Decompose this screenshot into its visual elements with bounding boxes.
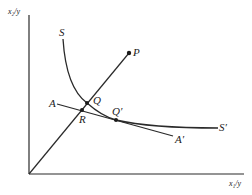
- point-q-prime-dot: [114, 118, 118, 122]
- label-p: P: [133, 47, 140, 58]
- label-q: Q: [93, 95, 101, 106]
- label-r: R: [79, 114, 86, 125]
- point-p-dot: [127, 51, 131, 55]
- point-r-dot: [80, 108, 84, 112]
- diagram-canvas: x₂/y x₁/y S S′ A A′ P Q R Q′: [0, 0, 252, 195]
- point-q-dot: [85, 101, 89, 105]
- x-axis-label: x₁/y: [229, 180, 241, 188]
- label-a-prime: A′: [175, 134, 184, 145]
- diagram-svg: [0, 0, 252, 195]
- y-axis-label: x₂/y: [8, 8, 20, 16]
- label-q-prime: Q′: [112, 106, 122, 117]
- label-s: S: [59, 27, 65, 38]
- isoquant-curve-ss: [63, 39, 218, 128]
- label-a: A: [49, 98, 56, 109]
- label-s-prime: S′: [219, 122, 227, 133]
